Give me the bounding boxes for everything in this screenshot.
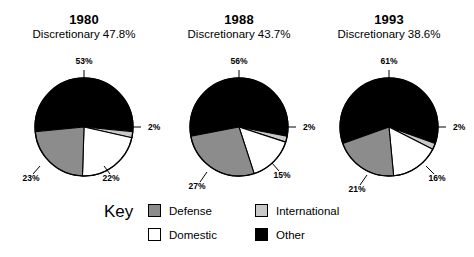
legend-swatch-defense (148, 204, 161, 217)
pie-slice-other (35, 78, 133, 132)
legend-item-domestic: Domestic (148, 228, 217, 241)
slice-value-label-defense: 23% (22, 173, 39, 183)
pie-panel-1993: 1993 Discretionary 38.6% 61%2%16%21% (310, 0, 468, 192)
pie-slice-defense (35, 127, 84, 176)
slice-value-label-defense: 27% (188, 181, 205, 191)
legend-heading: Key (104, 202, 133, 222)
slice-value-label-domestic: 22% (102, 173, 119, 183)
pie-svg-1980: 53%2%22%23% (5, 0, 163, 192)
legend-key: Key Defense International Domestic Other (0, 192, 474, 257)
legend-label-international: International (276, 205, 339, 217)
legend-swatch-other (255, 228, 268, 241)
slice-value-label-other: 53% (75, 56, 92, 66)
slice-value-label-domestic: 16% (428, 173, 445, 183)
legend-label-other: Other (276, 229, 305, 241)
slice-value-label-international: 2% (453, 122, 466, 132)
slice-value-label-domestic: 15% (273, 170, 290, 180)
legend-swatch-international (255, 204, 268, 217)
pie-chart-figure: 1980 Discretionary 47.8% 53%2%22%23% 198… (0, 0, 474, 257)
legend-label-domestic: Domestic (169, 229, 217, 241)
legend-item-other: Other (255, 228, 305, 241)
slice-value-label-other: 61% (380, 56, 397, 66)
legend-item-international: International (255, 204, 339, 217)
charts-row: 1980 Discretionary 47.8% 53%2%22%23% 198… (0, 0, 474, 192)
slice-value-label-international: 2% (148, 122, 161, 132)
pie-svg-1993: 61%2%16%21% (310, 0, 468, 192)
slice-value-label-other: 56% (230, 56, 247, 66)
pie-svg-1988: 56%2%15%27% (160, 0, 318, 192)
pie-panel-1980: 1980 Discretionary 47.8% 53%2%22%23% (5, 0, 163, 192)
legend-item-defense: Defense (148, 204, 212, 217)
legend-label-defense: Defense (169, 205, 212, 217)
legend-swatch-domestic (148, 228, 161, 241)
pie-panel-1988: 1988 Discretionary 43.7% 56%2%15%27% (160, 0, 318, 192)
